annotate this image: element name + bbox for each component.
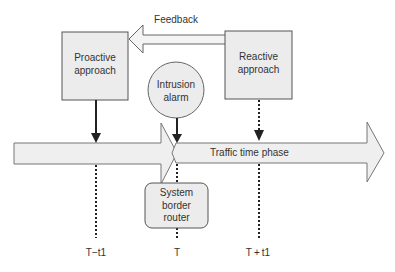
proactive-down-arrowhead bbox=[91, 133, 101, 143]
time-mark-t: T bbox=[157, 247, 197, 260]
time-mark-t-plus-t1: T + t1 bbox=[238, 247, 278, 260]
feedback-arrow bbox=[129, 25, 226, 53]
alarm-label-line2: alarm bbox=[148, 92, 204, 105]
reactive-label-line1: Reactive bbox=[225, 51, 292, 64]
proactive-label-line2: approach bbox=[62, 65, 128, 78]
alarm-label: Intrusion alarm bbox=[148, 79, 204, 104]
reactive-label-line2: approach bbox=[225, 64, 292, 77]
proactive-label-line1: Proactive bbox=[62, 52, 128, 65]
proactive-label: Proactive approach bbox=[62, 52, 128, 77]
timeline-label: Traffic time phase bbox=[210, 147, 310, 160]
router-label-line3: router bbox=[145, 212, 208, 225]
diagram-canvas bbox=[0, 0, 395, 272]
alarm-down-arrowhead bbox=[172, 134, 182, 143]
reactive-down-arrowhead bbox=[254, 130, 264, 141]
time-mark-t-minus-t1: T−t1 bbox=[76, 247, 116, 260]
feedback-label: Feedback bbox=[150, 14, 202, 27]
reactive-label: Reactive approach bbox=[225, 51, 292, 76]
router-label: System border router bbox=[145, 187, 208, 225]
router-label-line1: System bbox=[145, 187, 208, 200]
alarm-label-line1: Intrusion bbox=[148, 79, 204, 92]
router-label-line2: border bbox=[145, 200, 208, 213]
